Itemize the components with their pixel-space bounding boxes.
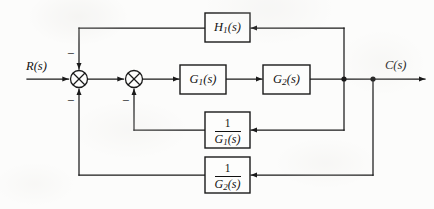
inv-g1-numerator: 1 bbox=[205, 117, 250, 129]
output-label: C(s) bbox=[385, 59, 407, 72]
node-tap-inner bbox=[341, 76, 346, 81]
block-inv-g2-label: 1 G2(s) bbox=[205, 162, 250, 193]
sum1-sign-bottom: − bbox=[67, 94, 74, 107]
inv-g2-numerator: 1 bbox=[205, 162, 250, 174]
sum1-sign-top: − bbox=[67, 47, 74, 60]
block-h1-label: H1(s) bbox=[205, 21, 250, 36]
block-g2-label: G2(s) bbox=[263, 73, 310, 88]
inv-g1-denominator: G1(s) bbox=[205, 133, 250, 148]
inv-g2-denominator: G2(s) bbox=[205, 178, 250, 193]
block-diagram-figure: R(s) C(s) H1(s) G1(s) G2(s) 1 G1(s) 1 G2… bbox=[0, 0, 434, 209]
node-tap-outer bbox=[370, 76, 375, 81]
block-g1-label: G1(s) bbox=[180, 73, 226, 88]
input-label: R(s) bbox=[26, 60, 47, 73]
sum2-sign-bottom: − bbox=[122, 94, 129, 107]
block-inv-g1-label: 1 G1(s) bbox=[205, 117, 250, 148]
